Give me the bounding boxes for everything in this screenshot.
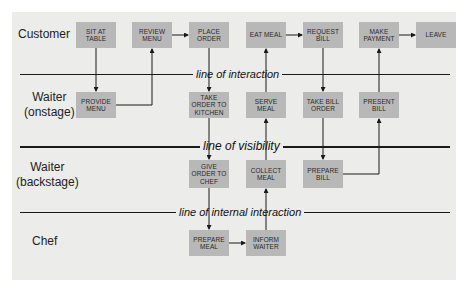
box-request-bill: REQUEST BILL bbox=[303, 22, 343, 48]
box-give-order-to-chef: GIVE ORDER TO CHEF bbox=[189, 160, 229, 188]
box-place-order: PLACE ORDER bbox=[189, 22, 229, 48]
box-sit-at-table: SIT AT TABLE bbox=[76, 22, 116, 48]
box-review-menu: REVIEW MENU bbox=[132, 22, 172, 48]
box-prepare-bill: PREPARE BILL bbox=[303, 160, 343, 188]
box-provide-menu: PROVIDE MENU bbox=[76, 92, 116, 118]
box-present-bill: PRESENT BILL bbox=[359, 92, 399, 118]
box-collect-meal: COLLECT MEAL bbox=[246, 160, 286, 188]
box-make-payment: MAKE PAYMENT bbox=[359, 22, 399, 48]
box-eat-meal: EAT MEAL bbox=[246, 22, 286, 48]
box-take-bill-order: TAKE BILL ORDER bbox=[303, 92, 343, 118]
box-take-order-to-kitchen: TAKE ORDER TO KITCHEN bbox=[189, 92, 229, 118]
box-serve-meal: SERVE MEAL bbox=[246, 92, 286, 118]
box-inform-waiter: INFORM WAITER bbox=[246, 230, 286, 256]
box-leave: LEAVE bbox=[416, 22, 456, 48]
box-prepare-meal: PREPARE MEAL bbox=[189, 230, 229, 256]
